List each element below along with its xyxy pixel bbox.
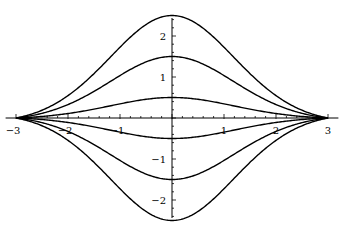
- y-tick-label: −1: [151, 154, 166, 165]
- x-tick-label: 2: [273, 125, 279, 136]
- line-chart: −3−2−1123−2−112: [0, 0, 349, 236]
- x-tick-label: 3: [325, 125, 331, 136]
- y-tick-label: 1: [160, 72, 166, 83]
- y-tick-label: −2: [151, 195, 166, 206]
- y-tick-label: 2: [160, 31, 166, 42]
- x-tick-label: 1: [221, 125, 227, 136]
- x-tick-label: −3: [6, 125, 21, 136]
- x-tick-label: −1: [110, 125, 125, 136]
- x-tick-label: −2: [58, 125, 73, 136]
- axes: [6, 18, 339, 218]
